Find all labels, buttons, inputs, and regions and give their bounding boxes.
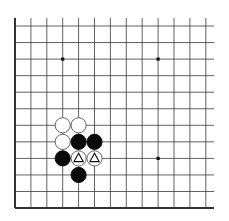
white-stone — [71, 151, 86, 166]
black-stone-circle-icon — [71, 167, 86, 182]
white-stone — [55, 118, 70, 133]
board-grid — [15, 18, 214, 208]
go-board — [0, 0, 229, 221]
white-stone-circle-icon — [55, 134, 70, 149]
black-stone — [87, 134, 102, 149]
black-stone-circle-icon — [71, 134, 86, 149]
white-stone-circle-icon — [55, 118, 70, 133]
black-stone — [71, 134, 86, 149]
white-stone-circle-icon — [71, 118, 86, 133]
black-stone-circle-icon — [55, 151, 70, 166]
star-point-icon — [61, 58, 64, 61]
white-stone — [55, 134, 70, 149]
white-stone — [87, 151, 102, 166]
black-stone — [71, 167, 86, 182]
white-stone — [71, 118, 86, 133]
black-stone-circle-icon — [87, 134, 102, 149]
black-stone — [55, 151, 70, 166]
star-point-icon — [157, 58, 160, 61]
star-point-icon — [157, 157, 160, 160]
